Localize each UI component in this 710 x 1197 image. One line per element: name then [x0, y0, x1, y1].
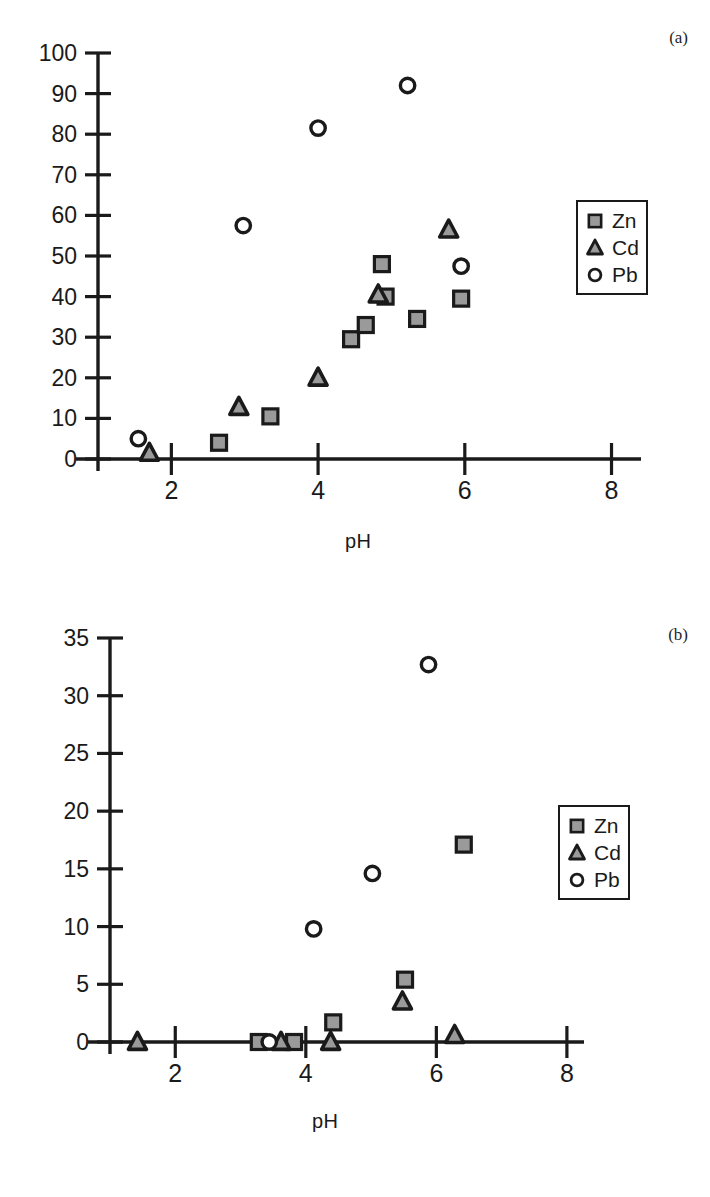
series-pb	[131, 78, 468, 446]
circle-marker	[365, 866, 379, 880]
circle-marker	[454, 259, 468, 273]
square-marker	[212, 435, 227, 450]
legend-row-pb: Pb	[567, 866, 619, 893]
square-marker	[263, 409, 278, 424]
x-axis-ticks: 2468	[168, 1026, 574, 1087]
legend-label: Zn	[594, 815, 619, 836]
circle-marker	[306, 922, 320, 936]
axes	[88, 638, 584, 1054]
circle-marker	[589, 269, 601, 281]
square-marker	[398, 972, 413, 987]
triangle-marker	[446, 1025, 464, 1042]
y-tick-label: 60	[51, 202, 77, 228]
x-axis-label-a: pH	[345, 530, 372, 553]
y-tick-label: 70	[51, 162, 77, 188]
circle-marker	[571, 874, 583, 886]
triangle-icon	[585, 238, 605, 258]
y-tick-label: 30	[51, 324, 77, 350]
legend-b: ZnCdPb	[558, 805, 630, 900]
axes	[76, 53, 641, 471]
y-tick-label: 10	[63, 914, 89, 940]
series-cd	[140, 220, 457, 460]
y-tick-label: 30	[63, 683, 89, 709]
y-tick-label: 20	[51, 365, 77, 391]
circle-marker	[236, 218, 250, 232]
y-tick-label: 0	[76, 1029, 89, 1055]
y-tick-label: 80	[51, 121, 77, 147]
y-tick-label: 0	[64, 446, 77, 472]
legend-label: Pb	[594, 869, 620, 890]
y-tick-label: 20	[63, 798, 89, 824]
x-tick-label: 2	[164, 476, 178, 504]
triangle-marker	[588, 240, 603, 254]
triangle-marker	[309, 368, 327, 385]
legend-label: Pb	[612, 264, 638, 285]
square-marker	[326, 1015, 341, 1030]
legend-row-pb: Pb	[585, 261, 637, 288]
x-tick-label: 6	[458, 476, 472, 504]
circle-icon	[585, 265, 605, 285]
square-icon	[585, 211, 605, 231]
x-tick-label: 8	[560, 1059, 574, 1087]
legend-label: Zn	[612, 210, 637, 231]
square-marker	[454, 291, 469, 306]
square-marker	[571, 819, 583, 831]
square-marker	[410, 311, 425, 326]
triangle-marker	[322, 1032, 340, 1049]
square-marker	[456, 837, 471, 852]
series-zn	[251, 837, 471, 1049]
square-marker	[589, 214, 601, 226]
circle-marker	[311, 121, 325, 135]
legend-row-zn: Zn	[567, 812, 619, 839]
triangle-marker	[230, 397, 248, 414]
legend-row-zn: Zn	[585, 207, 637, 234]
legend-a: ZnCdPb	[576, 200, 648, 295]
y-tick-label: 35	[63, 625, 89, 651]
y-tick-label: 15	[63, 856, 89, 882]
circle-marker	[421, 657, 435, 671]
x-tick-label: 4	[311, 476, 325, 504]
circle-marker	[131, 432, 145, 446]
triangle-marker	[570, 845, 585, 859]
circle-marker	[400, 78, 414, 92]
series-pb	[262, 657, 436, 1049]
y-tick-label: 25	[63, 740, 89, 766]
x-tick-label: 8	[605, 476, 619, 504]
triangle-marker	[128, 1032, 146, 1049]
data-points	[128, 657, 471, 1049]
legend-row-cd: Cd	[585, 234, 637, 261]
circle-marker	[262, 1035, 276, 1049]
y-tick-label: 50	[51, 243, 77, 269]
figure-panel-a: (a) 01020304050607080901002468 pH ZnCdPb	[0, 0, 710, 600]
triangle-icon	[567, 843, 587, 863]
y-tick-label: 100	[39, 40, 77, 66]
square-marker	[358, 318, 373, 333]
x-tick-label: 6	[429, 1059, 443, 1087]
y-tick-label: 40	[51, 284, 77, 310]
x-axis-ticks: 2468	[164, 443, 618, 504]
triangle-marker	[393, 992, 411, 1009]
legend-label: Cd	[594, 842, 621, 863]
y-axis-ticks: 0102030405060708090100	[39, 40, 111, 472]
square-marker	[344, 332, 359, 347]
x-axis-label-b: pH	[312, 1110, 339, 1133]
y-tick-label: 5	[76, 971, 89, 997]
square-icon	[567, 816, 587, 836]
figure-panel-b: (b) 051015202530352468 pH ZnCdPb	[0, 600, 710, 1197]
x-tick-label: 2	[168, 1059, 182, 1087]
data-points	[131, 78, 468, 460]
triangle-marker	[440, 220, 458, 237]
y-axis-ticks: 05101520253035	[63, 625, 123, 1055]
x-tick-label: 4	[299, 1059, 313, 1087]
y-tick-label: 10	[51, 405, 77, 431]
legend-row-cd: Cd	[567, 839, 619, 866]
series-zn	[212, 257, 469, 451]
circle-icon	[567, 870, 587, 890]
legend-label: Cd	[612, 237, 639, 258]
square-marker	[374, 257, 389, 272]
y-tick-label: 90	[51, 81, 77, 107]
